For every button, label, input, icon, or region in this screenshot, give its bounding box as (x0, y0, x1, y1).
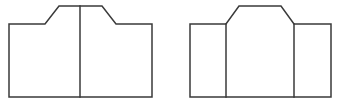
right-figure (190, 6, 331, 97)
left-figure (9, 6, 152, 97)
diagram-canvas (0, 0, 338, 101)
right-figure-dividers (226, 24, 294, 97)
right-figure-outline (190, 6, 331, 97)
